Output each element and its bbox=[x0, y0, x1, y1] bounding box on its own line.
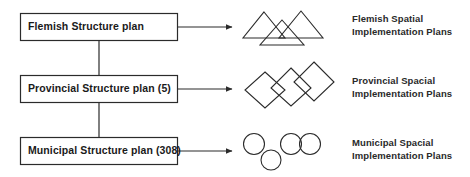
row-label-provincial-line1: Provincial Spacial bbox=[352, 75, 435, 86]
row-label-municipal-line2: Implementation Plans bbox=[352, 150, 452, 163]
box-label-provincial: Provincial Structure plan (5) bbox=[28, 82, 171, 94]
row-label-flemish-line2: Implementation Plans bbox=[352, 26, 452, 39]
three-triangles-icon bbox=[243, 11, 323, 45]
box-label-municipal: Municipal Structure plan (308) bbox=[28, 144, 181, 156]
three-diamonds-icon bbox=[245, 62, 334, 108]
row-label-municipal: Municipal Spacial Implementation Plans bbox=[352, 137, 452, 162]
row-label-provincial-line2: Implementation Plans bbox=[352, 88, 452, 101]
row-label-municipal-line1: Municipal Spacial bbox=[352, 137, 433, 148]
row-label-provincial: Provincial Spacial Implementation Plans bbox=[352, 75, 452, 100]
four-circles-icon bbox=[244, 134, 321, 171]
structure-plan-diagram: Flemish Structure plan Provincial Struct… bbox=[0, 0, 470, 177]
box-label-flemish: Flemish Structure plan bbox=[28, 20, 144, 32]
row-label-flemish: Flemish Spatial Implementation Plans bbox=[352, 13, 452, 38]
row-label-flemish-line1: Flemish Spatial bbox=[352, 13, 423, 24]
